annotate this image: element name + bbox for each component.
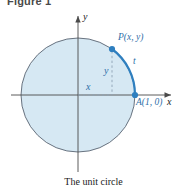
coordinate-y-label: y (104, 66, 108, 76)
point-a-label: A(1, 0) (136, 98, 162, 108)
y-axis-label: y (83, 12, 87, 22)
coordinate-x-label: x (86, 82, 90, 92)
figure-caption: The unit circle (0, 176, 187, 187)
y-axis-arrowhead (75, 16, 80, 23)
x-axis-label: x (167, 97, 171, 107)
point-p-label: P(x, y) (118, 33, 143, 43)
arc-t-label: t (133, 57, 136, 67)
point-p-marker (109, 46, 115, 52)
unit-circle-figure: Figure 1 y x P(x, y) A(1, 0) t y x The u… (0, 0, 187, 194)
